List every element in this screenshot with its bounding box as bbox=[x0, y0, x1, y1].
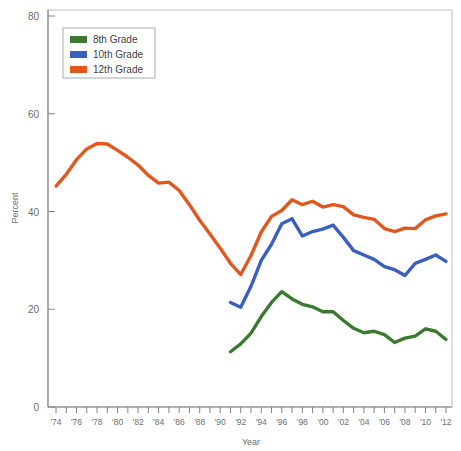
legend-label-10th-grade: 10th Grade bbox=[93, 49, 143, 60]
legend-label-12th-grade: 12th Grade bbox=[93, 64, 143, 75]
y-axis-title: Percent bbox=[10, 192, 20, 224]
legend-swatch-12th-grade bbox=[70, 66, 87, 73]
y-tick-label: 80 bbox=[28, 11, 40, 22]
x-tick-label: '92 bbox=[235, 417, 246, 427]
x-tick-label: '02 bbox=[338, 417, 349, 427]
x-tick-label: '00 bbox=[317, 417, 328, 427]
x-tick-label: '12 bbox=[440, 417, 451, 427]
x-tick-label: '88 bbox=[194, 417, 205, 427]
x-tick-label: '96 bbox=[276, 417, 287, 427]
x-axis-title: Year bbox=[242, 437, 260, 447]
x-tick-label: '76 bbox=[71, 417, 82, 427]
line-chart: 020406080Percent'74'76'78'80'82'84'86'88… bbox=[0, 0, 461, 451]
y-tick-label: 60 bbox=[28, 109, 40, 120]
x-tick-label: '06 bbox=[379, 417, 390, 427]
x-tick-label: '82 bbox=[133, 417, 144, 427]
x-tick-label: '86 bbox=[174, 417, 185, 427]
y-tick-label: 20 bbox=[28, 304, 40, 315]
x-tick-label: '84 bbox=[153, 417, 164, 427]
chart-canvas: 020406080Percent'74'76'78'80'82'84'86'88… bbox=[0, 0, 461, 451]
x-tick-label: '04 bbox=[358, 417, 369, 427]
x-tick-label: '80 bbox=[112, 417, 123, 427]
x-tick-label: '78 bbox=[92, 417, 103, 427]
x-tick-label: '10 bbox=[420, 417, 431, 427]
x-tick-label: '08 bbox=[399, 417, 410, 427]
x-tick-label: '94 bbox=[256, 417, 267, 427]
legend-swatch-8th-grade bbox=[70, 36, 87, 43]
x-tick-label: '90 bbox=[215, 417, 226, 427]
x-tick-label: '74 bbox=[50, 417, 61, 427]
legend-swatch-10th-grade bbox=[70, 51, 87, 58]
x-tick-label: '98 bbox=[297, 417, 308, 427]
y-tick-label: 40 bbox=[28, 207, 40, 218]
series-line-12th-grade bbox=[56, 144, 446, 275]
series-line-8th-grade bbox=[230, 292, 446, 352]
y-tick-label: 0 bbox=[33, 402, 39, 413]
legend-label-8th-grade: 8th Grade bbox=[93, 34, 138, 45]
